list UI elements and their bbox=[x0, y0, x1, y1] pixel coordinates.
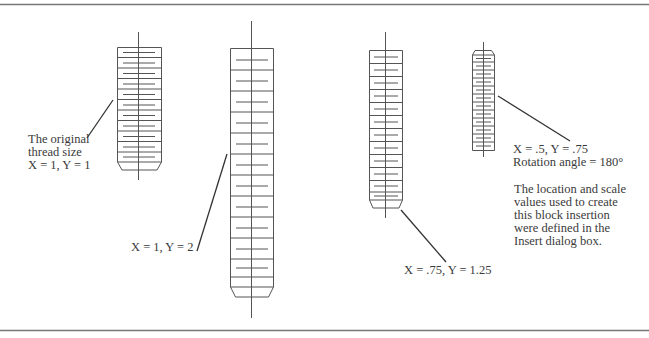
label-line: X = .75, Y = 1.25 bbox=[404, 264, 491, 277]
leader-line-scaled-y2 bbox=[197, 154, 227, 251]
label-line: X = 1, Y = 1 bbox=[28, 159, 90, 172]
leader-line-scaled-075-125 bbox=[401, 210, 446, 262]
leader-line-original bbox=[87, 100, 113, 138]
thread-block-original bbox=[118, 32, 162, 180]
label-original: The original thread size X = 1, Y = 1 bbox=[28, 133, 90, 172]
thread-block-scaled-y2 bbox=[231, 21, 274, 318]
note-line: Insert dialog box. bbox=[514, 235, 626, 248]
label-scaled-rotated: X = .5, Y = .75 Rotation angle = 180° bbox=[513, 143, 623, 169]
label-scaled-075-125: X = .75, Y = 1.25 bbox=[404, 264, 491, 277]
thread-drawing bbox=[0, 0, 649, 338]
label-line: X = 1, Y = 2 bbox=[131, 241, 193, 254]
label-scaled-y2: X = 1, Y = 2 bbox=[131, 241, 193, 254]
label-line: Rotation angle = 180° bbox=[513, 156, 623, 169]
thread-block-scaled-075-125 bbox=[370, 32, 403, 218]
leader-line-scaled-rotated bbox=[498, 96, 570, 141]
diagram-canvas: The original thread size X = 1, Y = 1 X … bbox=[0, 0, 649, 338]
thread-block-scaled-rotated bbox=[473, 42, 495, 157]
note-text: The location and scale values used to cr… bbox=[514, 183, 626, 248]
